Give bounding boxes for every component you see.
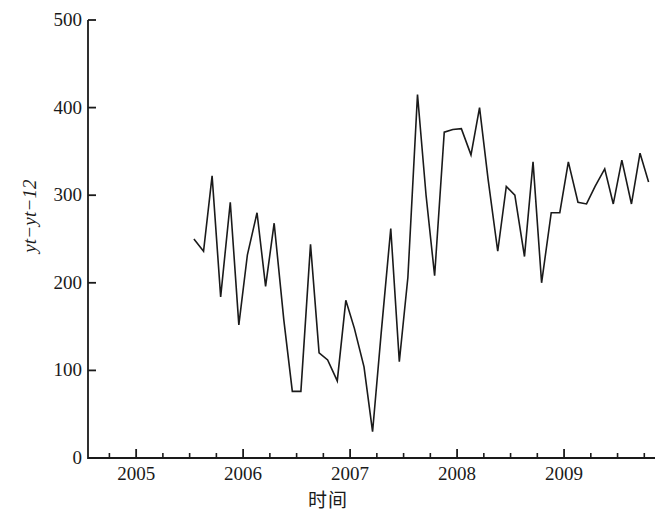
chart-figure: yt−yt−12 5004003002001000 20052006200720… <box>0 0 655 517</box>
plot-area <box>0 0 655 517</box>
y-tick-marks <box>88 20 96 458</box>
x-axis-label: 时间 <box>0 485 655 512</box>
x-tick-marks <box>136 449 564 458</box>
data-series-line <box>194 94 649 431</box>
axis-lines <box>88 20 655 458</box>
